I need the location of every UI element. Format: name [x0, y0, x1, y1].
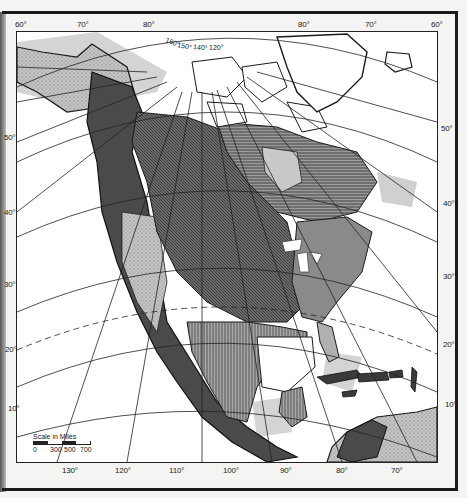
bottom-lon-label-100: 100°	[223, 466, 239, 475]
bottom-lon-label-80: 80°	[336, 466, 348, 475]
scale-tick-0: 0	[33, 446, 50, 453]
left-lat-label-10: 10°	[8, 404, 20, 413]
left-lat-label-30: 30°	[4, 280, 16, 289]
svg-text:120°: 120°	[209, 44, 224, 51]
map-frame: 160° 150° 140° 120°	[16, 31, 438, 463]
right-lat-label-10: 10°	[445, 400, 457, 409]
top-lon-label-80w: 80°	[143, 20, 155, 29]
bottom-lon-label-130: 130°	[62, 466, 78, 475]
svg-text:140°: 140°	[193, 43, 208, 51]
right-lat-label-40: 40°	[443, 199, 455, 208]
top-lon-label-60e: 60°	[431, 20, 443, 29]
map-sheet: 160° 150° 140° 120° 60° 70° 80° 80° 70° …	[0, 0, 467, 498]
scale-title: Scale in Miles	[33, 433, 92, 440]
florida	[317, 322, 339, 362]
bottom-lon-label-70: 70°	[391, 466, 403, 475]
left-lat-label-20: 20°	[5, 345, 17, 354]
left-lat-label-50: 50°	[4, 133, 16, 142]
top-lon-label-60w: 60°	[15, 20, 27, 29]
top-lon-label-80e: 80°	[298, 20, 310, 29]
bottom-lon-label-120: 120°	[115, 466, 131, 475]
right-lat-label-20: 20°	[443, 340, 455, 349]
bottom-lon-label-90: 90°	[280, 466, 292, 475]
iceland	[385, 52, 412, 72]
right-lat-label-30: 30°	[443, 272, 455, 281]
scale-tick-700: 700	[80, 446, 92, 453]
greenland	[277, 34, 367, 112]
scale-bar: Scale in Miles 0 300 500 700	[33, 433, 92, 453]
scale-ticks: 0 300 500 700	[33, 446, 92, 453]
scale-tick-500: 500	[64, 446, 80, 453]
bottom-lon-label-110: 110°	[169, 466, 184, 475]
scale-bar-graphic	[33, 441, 91, 445]
top-lon-label-70e: 70°	[365, 20, 377, 29]
right-lat-label-50: 50°	[441, 124, 453, 133]
top-lon-label-70w: 70°	[77, 20, 89, 29]
svg-text:150°: 150°	[177, 41, 193, 51]
map-canvas: 160° 150° 140° 120°	[17, 32, 437, 462]
left-lat-label-40: 40°	[4, 208, 16, 217]
scale-tick-300: 300	[50, 446, 64, 453]
